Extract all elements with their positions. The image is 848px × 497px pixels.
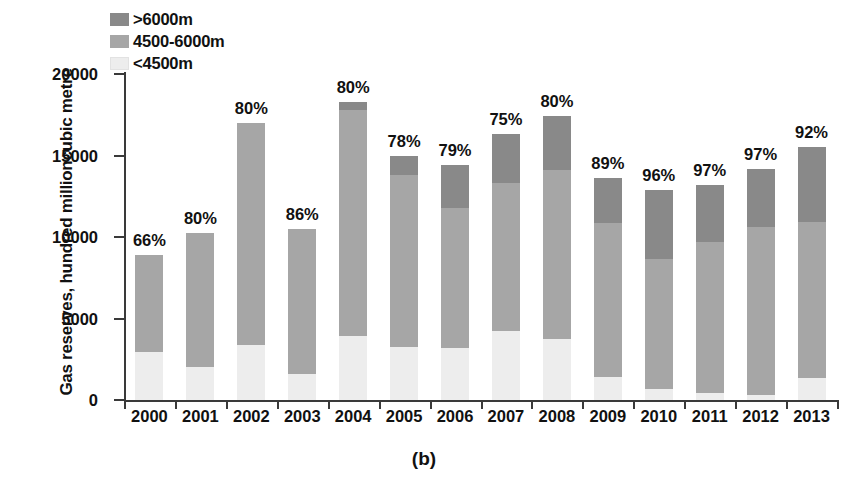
legend-item-4500-6000m: 4500-6000m — [110, 30, 225, 52]
x-tick-12 — [735, 400, 737, 409]
y-tick-label-10000: 10000 — [52, 228, 98, 247]
x-tick-11 — [684, 400, 686, 409]
x-tick-9 — [582, 400, 584, 409]
data-label-2011: 97% — [693, 161, 726, 180]
bar-segment-under-4500m-2008 — [543, 339, 571, 400]
y-tick-20000 — [114, 73, 124, 75]
x-tick-label-2004: 2004 — [335, 407, 372, 426]
bar-2000[interactable] — [135, 255, 163, 400]
y-tick-10000 — [114, 236, 124, 238]
bar-segment-under-4500m-2004 — [339, 336, 367, 400]
x-tick-5 — [379, 400, 381, 409]
bar-segment-under-4500m-2012 — [747, 395, 775, 400]
x-tick-label-2010: 2010 — [640, 407, 677, 426]
bar-segment-over-6000m-2006 — [441, 165, 469, 207]
data-label-2005: 78% — [388, 132, 421, 151]
bar-segment-over-6000m-2013 — [798, 147, 826, 222]
legend-label-over-6000m: >6000m — [133, 11, 193, 28]
bar-2013[interactable] — [798, 147, 826, 400]
bar-segment-over-6000m-2009 — [594, 178, 622, 223]
bar-segment-under-4500m-2006 — [441, 348, 469, 400]
bar-segment-4500-6000m-2004 — [339, 110, 367, 336]
legend-swatch-under-4500m — [110, 57, 129, 70]
bar-2006[interactable] — [441, 165, 469, 400]
x-tick-label-2008: 2008 — [539, 407, 576, 426]
x-tick-label-2007: 2007 — [488, 407, 525, 426]
bar-segment-4500-6000m-2000 — [135, 255, 163, 352]
bar-segment-4500-6000m-2009 — [594, 223, 622, 377]
x-tick-6 — [430, 400, 432, 409]
bar-2009[interactable] — [594, 178, 622, 400]
data-label-2007: 75% — [489, 110, 522, 129]
y-tick-label-15000: 15000 — [52, 146, 98, 165]
bar-segment-under-4500m-2010 — [645, 389, 673, 400]
x-tick-3 — [277, 400, 279, 409]
y-tick-label-0: 0 — [89, 391, 98, 410]
legend-item-under-4500m: <4500m — [110, 52, 225, 74]
x-tick-1 — [175, 400, 177, 409]
bar-segment-under-4500m-2007 — [492, 331, 520, 400]
bar-segment-4500-6000m-2010 — [645, 259, 673, 389]
bar-2005[interactable] — [390, 156, 418, 400]
bar-segment-4500-6000m-2002 — [237, 123, 265, 345]
bar-2004[interactable] — [339, 102, 367, 400]
bar-2002[interactable] — [237, 123, 265, 400]
y-tick-label-5000: 5000 — [61, 309, 98, 328]
bar-segment-4500-6000m-2003 — [288, 229, 316, 374]
bar-2001[interactable] — [186, 233, 214, 400]
data-label-2003: 86% — [286, 205, 319, 224]
bar-2008[interactable] — [543, 116, 571, 400]
x-tick-label-2003: 2003 — [284, 407, 321, 426]
x-tick-label-2001: 2001 — [182, 407, 219, 426]
bar-2003[interactable] — [288, 229, 316, 400]
y-tick-label-20000: 20000 — [52, 65, 98, 84]
data-label-2012: 97% — [744, 145, 777, 164]
bar-2010[interactable] — [645, 190, 673, 400]
legend-swatch-4500-6000m — [110, 35, 129, 48]
bar-segment-over-6000m-2008 — [543, 116, 571, 171]
x-tick-7 — [481, 400, 483, 409]
bar-segment-over-6000m-2005 — [390, 156, 418, 175]
bar-segment-under-4500m-2005 — [390, 347, 418, 400]
bar-segment-under-4500m-2011 — [696, 393, 724, 400]
bar-segment-under-4500m-2001 — [186, 367, 214, 400]
bar-segment-4500-6000m-2013 — [798, 222, 826, 378]
y-tick-0 — [114, 399, 124, 401]
x-tick-label-2006: 2006 — [437, 407, 474, 426]
x-tick-4 — [328, 400, 330, 409]
y-axis-tick-labels: 05000100001500020000 — [0, 0, 112, 497]
figure-panel-b: >6000m 4500-6000m <4500m Gas reserves, h… — [0, 0, 848, 497]
plot-area: 66%80%80%86%80%78%79%75%80%89%96%97%97%9… — [124, 74, 837, 400]
x-tick-2 — [226, 400, 228, 409]
y-tick-15000 — [114, 155, 124, 157]
bar-segment-4500-6000m-2008 — [543, 170, 571, 339]
x-tick-label-2005: 2005 — [386, 407, 423, 426]
bar-segment-4500-6000m-2005 — [390, 175, 418, 347]
data-label-2006: 79% — [439, 141, 472, 160]
bar-2012[interactable] — [747, 169, 775, 400]
data-label-2009: 89% — [591, 154, 624, 173]
x-tick-label-2013: 2013 — [793, 407, 830, 426]
data-label-2008: 80% — [540, 92, 573, 111]
bar-segment-over-6000m-2004 — [339, 102, 367, 110]
legend-label-4500-6000m: 4500-6000m — [133, 33, 225, 50]
data-label-2010: 96% — [642, 166, 675, 185]
data-label-2001: 80% — [184, 209, 217, 228]
x-tick-end — [837, 400, 839, 409]
bar-segment-under-4500m-2002 — [237, 345, 265, 400]
bar-segment-4500-6000m-2011 — [696, 242, 724, 393]
bar-segment-under-4500m-2009 — [594, 377, 622, 400]
data-label-2004: 80% — [337, 78, 370, 97]
x-tick-label-2011: 2011 — [692, 407, 728, 426]
bar-segment-over-6000m-2010 — [645, 190, 673, 259]
data-label-2002: 80% — [235, 99, 268, 118]
chart-legend: >6000m 4500-6000m <4500m — [110, 8, 225, 74]
bar-segment-under-4500m-2013 — [798, 378, 826, 400]
x-tick-13 — [786, 400, 788, 409]
bar-segment-4500-6000m-2001 — [186, 233, 214, 367]
bar-2011[interactable] — [696, 185, 724, 400]
x-tick-8 — [531, 400, 533, 409]
x-tick-0 — [124, 400, 126, 409]
bar-2007[interactable] — [492, 134, 520, 400]
bar-segment-4500-6000m-2007 — [492, 183, 520, 331]
